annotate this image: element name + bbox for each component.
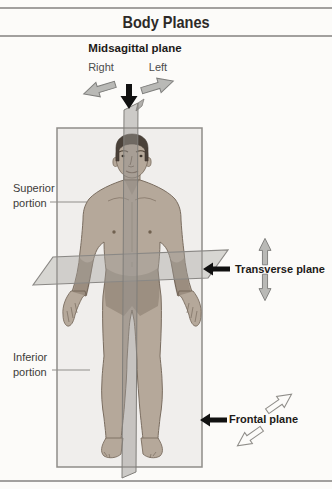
midsagittal-plane-top-edge <box>136 99 144 111</box>
transverse-down-arrow-icon <box>259 274 271 300</box>
body-planes-figure: Body Planes <box>0 0 332 489</box>
left-direction-arrow-icon <box>140 74 176 98</box>
frontal-pointer-arrow-icon <box>200 414 227 427</box>
transverse-up-arrow-icon <box>259 238 271 264</box>
left-nipple <box>112 230 115 233</box>
midsagittal-plane-label: Midsagittal plane <box>35 42 235 54</box>
inferior-portion-label: Inferior portion <box>13 350 47 380</box>
frontal-plane-label: Frontal plane <box>229 413 298 425</box>
bottom-rule <box>0 480 332 482</box>
transverse-plane-label: Transverse plane <box>235 263 325 275</box>
superior-portion-label: Superior portion <box>13 181 55 211</box>
right-direction-arrow-icon <box>82 77 118 101</box>
midsagittal-plane <box>122 103 138 478</box>
frontal-down-left-arrow-icon <box>234 423 266 451</box>
right-nipple <box>148 230 151 233</box>
right-eye <box>140 155 143 158</box>
right-label: Right <box>81 61 121 73</box>
right-foot <box>141 438 162 458</box>
left-foot <box>102 438 123 458</box>
left-label: Left <box>138 61 178 73</box>
